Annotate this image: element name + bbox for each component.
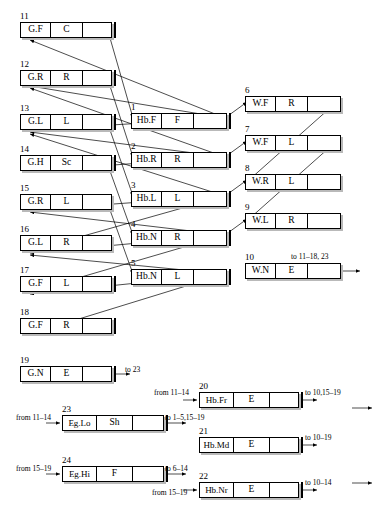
node-4-cell-3 [194,231,226,245]
node-6[interactable]: W.FR [245,96,341,112]
node-20-cell-3 [270,393,298,407]
node-2[interactable]: Hb.RR [131,152,227,168]
node-18-terminal-bar [114,318,116,334]
node-21-terminal-bar [301,437,303,453]
node-24-cell-3 [133,467,163,481]
node-24-cell-2: F [97,467,133,481]
annotation-to-22: to 10–14 [305,479,331,487]
node-11[interactable]: G.FC [20,22,112,38]
node-15-cell-2: L [51,195,83,209]
node-10-cell-2: E [276,264,308,278]
node-9[interactable]: W.LR [245,213,341,229]
node-index-9: 9 [245,203,250,212]
node-2-cell-2: R [162,153,194,167]
node-13-terminal-bar [114,114,116,130]
node-13[interactable]: G.LL [20,114,112,130]
node-19[interactable]: G.NE [20,366,112,382]
annotation-from-23: from 11–14 [16,414,51,422]
node-index-21: 21 [199,427,208,436]
node-index-2: 2 [131,142,136,151]
node-14[interactable]: G.HSc [20,155,112,171]
node-1[interactable]: Hb.FF [131,113,227,129]
node-5[interactable]: Hb.NL [131,269,227,285]
node-4-cell-2: R [162,231,194,245]
node-8-cell-1: W.R [246,175,276,189]
node-1-terminal-bar [229,113,231,129]
annotation-to-19: to 23 [125,366,140,374]
node-2-terminal-bar [229,152,231,168]
node-index-12: 12 [20,60,29,69]
node-index-1: 1 [131,103,136,112]
node-16-cell-3 [83,236,111,250]
annotation-to-24: to 6–14 [165,465,188,473]
annotation-from-24: from 15–19 [16,465,51,473]
annotation-to-10: to 11–18, 23 [291,253,328,261]
node-17-terminal-bar [114,276,116,292]
node-1-cell-3 [194,114,226,128]
node-6-cell-1: W.F [246,97,276,111]
node-22-terminal-bar [301,482,303,498]
node-7[interactable]: W.FL [245,135,341,151]
node-index-20: 20 [199,382,208,391]
node-8[interactable]: W.RL [245,174,341,190]
node-index-24: 24 [62,456,71,465]
annotation-from-22: from 15–19 [152,489,187,497]
node-3-cell-3 [194,192,226,206]
node-22[interactable]: Hb.NrE [199,482,299,498]
node-11-terminal-bar [114,22,116,38]
node-5-cell-3 [194,270,226,284]
node-21-cell-3 [270,438,298,452]
node-18[interactable]: G.FR [20,318,112,334]
node-1-cell-1: Hb.F [132,114,162,128]
node-14-terminal-bar [114,155,116,171]
node-22-cell-2: E [234,483,270,497]
node-5-terminal-bar [229,269,231,285]
node-20-terminal-bar [301,392,303,408]
node-23-cell-1: Eg.Lo [63,416,97,430]
node-15[interactable]: G.RL [20,194,112,210]
node-16[interactable]: G.LR [20,235,112,251]
node-10-cell-3 [308,264,340,278]
node-21-cell-1: Hb.Md [200,438,234,452]
node-18-cell-3 [83,319,111,333]
node-4-cell-1: Hb.N [132,231,162,245]
node-17-cell-2: L [51,277,83,291]
node-12-terminal-bar [114,70,116,86]
node-19-cell-1: G.N [21,367,51,381]
node-21[interactable]: Hb.MdE [199,437,299,453]
node-index-7: 7 [245,125,250,134]
node-3-terminal-bar [229,191,231,207]
node-index-15: 15 [20,184,29,193]
node-7-cell-3 [308,136,340,150]
node-1-cell-2: F [162,114,194,128]
node-20[interactable]: Hb.FrE [199,392,299,408]
node-18-cell-1: G.F [21,319,51,333]
node-22-cell-3 [270,483,298,497]
node-13-cell-3 [83,115,111,129]
node-10[interactable]: W.NE [245,263,341,279]
node-14-cell-1: G.H [21,156,51,170]
node-5-cell-2: L [162,270,194,284]
node-18-cell-2: R [51,319,83,333]
node-9-cell-2: R [276,214,308,228]
node-4[interactable]: Hb.NR [131,230,227,246]
node-10-cell-1: W.N [246,264,276,278]
node-11-cell-1: G.F [21,23,51,37]
node-16-cell-2: R [51,236,83,250]
node-17[interactable]: G.FL [20,276,112,292]
node-20-cell-2: E [234,393,270,407]
node-19-terminal-bar [114,366,116,382]
node-2-cell-1: Hb.R [132,153,162,167]
node-index-22: 22 [199,472,208,481]
node-3[interactable]: Hb.LL [131,191,227,207]
node-13-cell-1: G.L [21,115,51,129]
node-12-cell-3 [83,71,111,85]
node-24[interactable]: Eg.HiF [62,466,164,482]
node-11-cell-3 [83,23,111,37]
node-3-cell-1: Hb.L [132,192,162,206]
node-12-cell-1: G.R [21,71,51,85]
node-19-cell-2: E [51,367,83,381]
node-12[interactable]: G.RR [20,70,112,86]
node-23[interactable]: Eg.LoSh [62,415,164,431]
node-index-8: 8 [245,164,250,173]
